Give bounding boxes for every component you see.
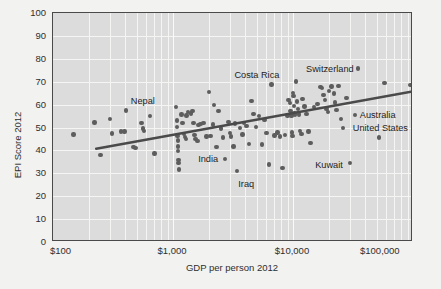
data-point xyxy=(71,132,75,136)
data-point xyxy=(341,126,345,130)
data-point xyxy=(176,161,180,165)
data-point xyxy=(233,121,237,125)
data-point xyxy=(221,135,225,139)
data-point xyxy=(122,129,126,133)
data-point xyxy=(226,120,230,124)
data-point xyxy=(240,132,244,136)
data-point xyxy=(191,121,195,125)
y-tick-label: 20 xyxy=(0,190,46,201)
y-tick-label: 70 xyxy=(0,75,46,86)
data-point xyxy=(339,117,343,121)
data-point xyxy=(332,91,336,95)
data-point xyxy=(336,84,340,88)
gridline-vertical-minor xyxy=(350,13,351,240)
gridline-horizontal xyxy=(53,150,411,151)
data-point xyxy=(212,103,216,107)
data-point xyxy=(249,99,253,103)
gridline-vertical-minor xyxy=(329,13,330,240)
data-point xyxy=(208,134,212,138)
data-point xyxy=(251,112,255,116)
gridline-horizontal xyxy=(53,59,411,60)
data-point xyxy=(290,134,294,138)
gridline-horizontal xyxy=(53,219,411,220)
annotation-label: Switzerland xyxy=(306,64,354,74)
data-point xyxy=(254,125,258,129)
x-tick-label: $100 xyxy=(50,245,71,256)
gridline-vertical-minor xyxy=(110,13,111,240)
gridline-horizontal xyxy=(53,105,411,106)
data-point xyxy=(304,112,308,116)
data-point xyxy=(98,153,102,157)
data-point xyxy=(296,107,300,111)
x-tick-label: $10,000 xyxy=(275,245,309,256)
data-point xyxy=(207,90,211,94)
data-point xyxy=(295,99,299,103)
data-point xyxy=(382,81,386,85)
data-point xyxy=(302,104,306,108)
annotation-label: Australia xyxy=(360,110,396,120)
data-point xyxy=(214,145,218,149)
gridline-vertical-minor xyxy=(288,13,289,240)
annotation-label: India xyxy=(198,154,218,164)
data-point xyxy=(177,167,181,171)
annotation-label: Costa Rica xyxy=(234,70,279,80)
gridline-vertical-major xyxy=(173,13,174,240)
gridline-vertical-minor xyxy=(161,13,162,240)
x-axis-label: GDP per person 2012 xyxy=(52,262,412,273)
data-point xyxy=(377,135,381,139)
data-point xyxy=(280,166,284,170)
data-point xyxy=(267,162,271,166)
data-point xyxy=(216,109,220,113)
data-point xyxy=(247,142,251,146)
data-point xyxy=(223,157,227,161)
x-tick-label: $1,000 xyxy=(157,245,186,256)
gridline-vertical-minor xyxy=(146,13,147,240)
data-point xyxy=(323,98,327,102)
gridline-vertical-minor xyxy=(266,13,267,240)
data-point xyxy=(195,139,199,143)
y-tick-label: 60 xyxy=(0,98,46,109)
data-point xyxy=(329,84,333,88)
y-tick-label: 100 xyxy=(0,7,46,18)
data-point xyxy=(142,129,146,133)
y-tick-label: 10 xyxy=(0,213,46,224)
y-tick-label: 80 xyxy=(0,52,46,63)
x-tick-label: $100,000 xyxy=(360,245,400,256)
data-point xyxy=(190,109,194,113)
gridline-horizontal xyxy=(53,173,411,174)
gridline-vertical-minor xyxy=(281,13,282,240)
data-point xyxy=(238,126,242,130)
gridline-horizontal xyxy=(53,36,411,37)
plot-area: NepalCosta RicaSwitzerlandAustraliaUnite… xyxy=(52,12,412,241)
data-point xyxy=(244,124,248,128)
y-tick-label: 90 xyxy=(0,29,46,40)
data-point xyxy=(300,97,304,101)
data-point xyxy=(291,94,295,98)
y-tick-label: 40 xyxy=(0,144,46,155)
data-point xyxy=(321,93,325,97)
annotation-label: Iraq xyxy=(238,179,254,189)
data-point xyxy=(297,112,301,116)
gridline-vertical-minor xyxy=(230,13,231,240)
scatter-chart-figure: EPI Score 2012 GDP per person 2012 01020… xyxy=(0,0,441,289)
gridline-vertical-minor xyxy=(274,13,275,240)
annotation-label: Nepal xyxy=(131,96,155,106)
data-point xyxy=(334,108,338,112)
data-point xyxy=(264,131,268,135)
data-point xyxy=(356,66,360,70)
data-point xyxy=(278,134,282,138)
gridline-vertical-major xyxy=(293,13,294,240)
data-point xyxy=(408,83,412,87)
data-point xyxy=(299,132,303,136)
gridline-vertical-minor xyxy=(168,13,169,240)
data-point xyxy=(176,138,180,142)
gridline-horizontal xyxy=(53,196,411,197)
data-point xyxy=(175,118,179,122)
y-tick-label: 50 xyxy=(0,121,46,132)
data-point xyxy=(315,102,319,106)
data-point xyxy=(175,125,179,129)
gridline-vertical-minor xyxy=(209,13,210,240)
data-point xyxy=(219,126,223,130)
annotation-label: Kuwait xyxy=(315,160,343,170)
data-point xyxy=(92,120,96,124)
